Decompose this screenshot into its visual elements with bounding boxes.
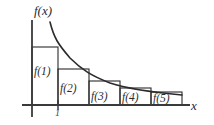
y-axis-label: f(x) — [34, 4, 52, 17]
bar-label-f2: f(2) — [60, 83, 77, 95]
bar-label-f1: f(1) — [34, 66, 51, 78]
x-tick-label-1: 1 — [55, 108, 60, 118]
diagram-canvas — [0, 0, 214, 125]
bar-label-f5: f(5) — [153, 93, 170, 105]
bar-label-f3: f(3) — [91, 91, 108, 103]
integral-test-diagram: f(x) x 1 f(1) f(2) f(3) f(4) f(5) — [0, 0, 214, 125]
x-axis-label: x — [191, 99, 197, 112]
bar-label-f4: f(4) — [122, 92, 139, 104]
